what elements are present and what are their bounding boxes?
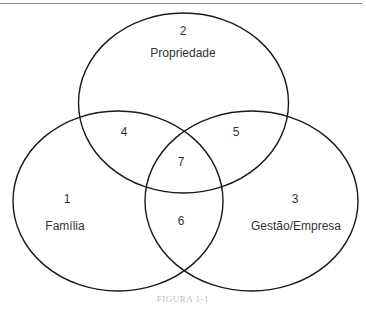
region-1-label: Família	[45, 220, 84, 232]
region-6-number: 6	[178, 215, 185, 227]
region-3-label: Gestão/Empresa	[251, 220, 341, 232]
region-2-number: 2	[180, 25, 187, 37]
region-2-label: Propriedade	[150, 47, 215, 59]
region-4-number: 4	[121, 126, 128, 138]
circle-gestao	[145, 111, 358, 291]
figure-caption: FIGURA 1-1	[157, 294, 209, 304]
region-1-number: 1	[64, 193, 71, 205]
region-7-number: 7	[178, 156, 185, 168]
region-5-number: 5	[233, 126, 240, 138]
region-3-number: 3	[292, 193, 299, 205]
circle-familia	[13, 111, 223, 291]
